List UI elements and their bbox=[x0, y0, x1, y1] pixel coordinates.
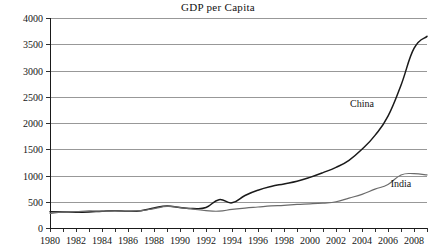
series-label-india: India bbox=[391, 178, 412, 189]
x-tick-label: 2006 bbox=[378, 235, 398, 246]
y-axis-tick-labels: 05001000150020002500300035004000 bbox=[23, 13, 43, 234]
x-tick-label: 2002 bbox=[326, 235, 346, 246]
y-tick-label: 0 bbox=[38, 223, 43, 234]
x-tick-label: 1986 bbox=[118, 235, 138, 246]
chart-container: GDP per Capita 0500100015002000250030003… bbox=[0, 0, 436, 252]
x-tick-label: 2000 bbox=[300, 235, 320, 246]
x-tick-label: 2004 bbox=[352, 235, 372, 246]
x-tick-label: 1988 bbox=[144, 235, 164, 246]
y-tick-label: 3000 bbox=[23, 66, 43, 77]
y-tick-label: 2500 bbox=[23, 92, 43, 103]
x-tick-label: 1980 bbox=[40, 235, 60, 246]
x-tick-label: 1998 bbox=[274, 235, 294, 246]
y-tick-label: 500 bbox=[28, 197, 43, 208]
y-tick-label: 4000 bbox=[23, 13, 43, 24]
x-tick-label: 1984 bbox=[92, 235, 112, 246]
x-tick-label: 1996 bbox=[248, 235, 268, 246]
chart-plot-area: 05001000150020002500300035004000 1980198… bbox=[0, 0, 436, 252]
x-axis-tick-labels: 1980198219841986198819901992199419961998… bbox=[40, 235, 424, 246]
gridlines bbox=[50, 19, 427, 229]
y-tick-label: 3500 bbox=[23, 39, 43, 50]
y-tick-label: 1500 bbox=[23, 144, 43, 155]
series-line-china bbox=[50, 36, 427, 212]
y-tick-label: 1000 bbox=[23, 171, 43, 182]
y-tick-label: 2000 bbox=[23, 118, 43, 129]
data-series bbox=[50, 36, 427, 213]
x-tick-label: 1990 bbox=[170, 235, 190, 246]
x-tick-label: 1992 bbox=[196, 235, 216, 246]
series-label-china: China bbox=[350, 98, 374, 109]
x-tick-label: 1994 bbox=[222, 235, 242, 246]
x-tick-label: 1982 bbox=[66, 235, 86, 246]
x-tick-label: 2008 bbox=[404, 235, 424, 246]
y-axis-tick-marks bbox=[46, 19, 50, 229]
series-line-india bbox=[50, 173, 427, 213]
